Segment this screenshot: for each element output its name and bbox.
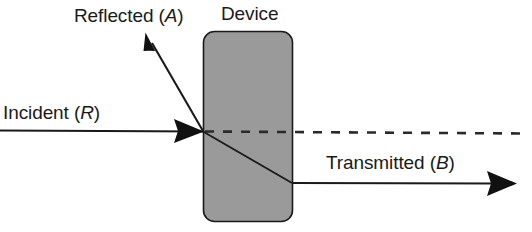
transmitted-label-prefix: Transmitted ( (326, 152, 436, 173)
transmitted-ray-label: Transmitted (B) (326, 153, 455, 172)
transmitted-ray-exit-segment (292, 183, 498, 184)
incident-ray-line (0, 131, 203, 132)
device-slab (204, 32, 293, 222)
transmitted-label-suffix: ) (449, 152, 455, 173)
device-label: Device (221, 4, 278, 23)
reflected-ray-arrowhead (144, 33, 161, 62)
reflected-label-symbol: A (165, 5, 178, 26)
incident-ray-label: Incident (R) (3, 103, 100, 122)
transmitted-ray-arrowhead (487, 171, 517, 196)
incident-label-symbol: R (80, 102, 94, 123)
incident-ray-arrowhead (174, 119, 204, 143)
reflected-label-suffix: ) (177, 5, 183, 26)
reflected-ray-line (152, 43, 203, 131)
ray-diagram-figure: Reflected (A) Device Incident (R) Transm… (0, 0, 532, 232)
incident-label-prefix: Incident ( (3, 102, 80, 123)
reflected-label-prefix: Reflected ( (74, 5, 165, 26)
transmitted-label-symbol: B (436, 152, 449, 173)
reflected-ray-label: Reflected (A) (74, 6, 184, 25)
incident-label-suffix: ) (94, 102, 100, 123)
